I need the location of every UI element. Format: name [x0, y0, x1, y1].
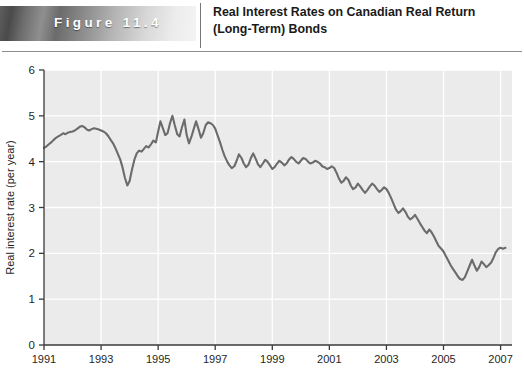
y-tick-label: 5	[29, 110, 35, 122]
y-tick-label: 2	[29, 247, 35, 259]
y-tick-label: 6	[29, 64, 35, 76]
figure-header: Figure 11.4 Real Interest Rates on Canad…	[0, 0, 524, 52]
figure-title: Real Interest Rates on Canadian Real Ret…	[213, 4, 513, 37]
y-axis-title: Real interest rate (per year)	[4, 140, 16, 275]
y-axis-ticks: 0123456	[29, 64, 44, 351]
x-tick-label: 1991	[32, 353, 56, 365]
y-tick-label: 4	[29, 156, 36, 168]
x-tick-label: 1995	[146, 353, 170, 365]
figure-number-badge: Figure 11.4	[0, 6, 196, 41]
x-tick-label: 2007	[488, 353, 512, 365]
x-axis-ticks: 199119931995199719992001200320052007	[32, 345, 513, 365]
x-tick-label: 2003	[374, 353, 398, 365]
chart-plot-area: 0123456 19911993199519971999200120032005…	[0, 52, 524, 376]
x-tick-label: 2001	[317, 353, 341, 365]
figure-number-label: Figure 11.4	[54, 15, 162, 30]
line-chart: 0123456 19911993199519971999200120032005…	[0, 52, 524, 376]
y-tick-label: 3	[29, 202, 35, 214]
x-tick-label: 1997	[203, 353, 227, 365]
header-divider	[200, 3, 201, 48]
y-tick-label: 1	[29, 293, 35, 305]
y-axis-label: Real interest rate (per year)	[4, 140, 16, 275]
x-tick-label: 1999	[260, 353, 284, 365]
x-tick-label: 1993	[89, 353, 113, 365]
y-tick-label: 0	[29, 339, 35, 351]
x-tick-label: 2005	[431, 353, 455, 365]
